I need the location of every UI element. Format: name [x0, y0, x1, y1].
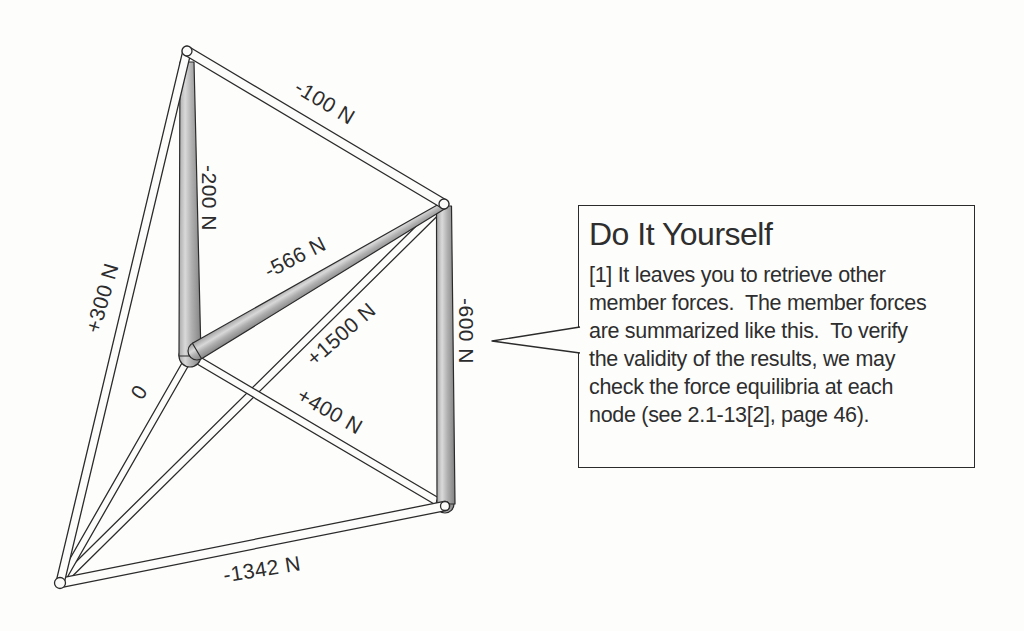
callout-title: Do It Yourself	[589, 217, 974, 252]
callout-line: member forces. The member forces	[589, 289, 974, 317]
callout-line: check the force equilibria at each	[589, 373, 974, 401]
callout-line: are summarized like this. To verify	[589, 317, 974, 345]
node-top	[182, 46, 192, 56]
member-minus-600n	[436, 206, 455, 513]
callout-line: the validity of the results, we may	[589, 345, 974, 373]
label-plus-400n: +400 N	[293, 383, 366, 439]
callout-line: node (see 2.1-13[2], page 46).	[589, 401, 974, 429]
member-minus-100n	[187, 51, 444, 204]
callout-pointer	[486, 316, 586, 366]
callout-body: [1] It leaves you to retrieve other memb…	[589, 261, 974, 429]
node-right	[439, 199, 449, 209]
label-minus-600n: -600 N	[455, 298, 478, 364]
member-minus-566n	[188, 203, 445, 361]
member-plus-300n	[60, 51, 187, 583]
node-bottom-left	[55, 578, 66, 589]
label-minus-1342n: -1342 N	[222, 551, 303, 586]
label-plus-300n: +300 N	[81, 261, 123, 336]
callout-box: Do It Yourself [1] It leaves you to retr…	[578, 205, 975, 468]
member-plus-400n	[191, 356, 445, 506]
callout-line: [1] It leaves you to retrieve other	[589, 261, 974, 289]
label-zero: 0	[126, 381, 152, 404]
figure-page: -100 N -200 N -566 N +300 N 0 +1500 N +4…	[0, 0, 1024, 631]
label-minus-200n: -200 N	[198, 165, 221, 231]
node-bottom-right	[441, 502, 450, 511]
